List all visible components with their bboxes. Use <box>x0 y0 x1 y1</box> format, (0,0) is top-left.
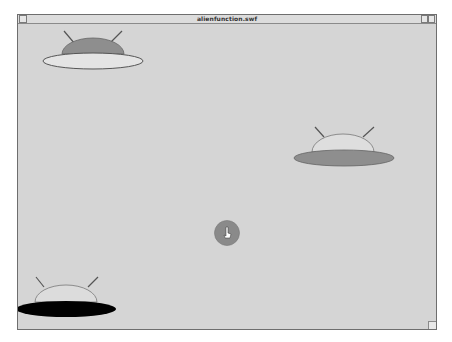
stage-canvas <box>18 24 436 329</box>
zoom-button[interactable] <box>421 15 428 23</box>
ufo-right[interactable] <box>294 127 394 166</box>
collapse-button[interactable] <box>428 15 435 23</box>
ufo-top-left[interactable] <box>43 31 143 69</box>
app-window: alienfunction.swf <box>17 14 437 330</box>
resize-handle[interactable] <box>428 321 436 329</box>
ufo-bottom-left[interactable] <box>18 277 116 317</box>
title-bar[interactable]: alienfunction.swf <box>18 15 436 24</box>
window-title: alienfunction.swf <box>18 14 436 23</box>
flash-stage[interactable] <box>18 24 436 329</box>
